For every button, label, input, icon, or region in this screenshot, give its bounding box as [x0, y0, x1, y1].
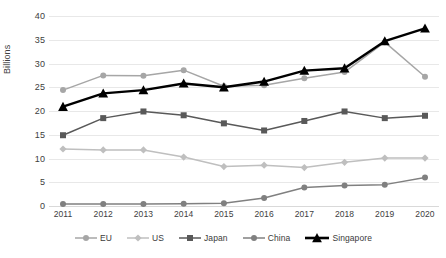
data-point-marker — [140, 73, 146, 79]
y-axis-tick-label: 5 — [3, 177, 45, 187]
series-line — [63, 178, 425, 205]
data-point-marker — [341, 159, 348, 166]
data-point-marker — [100, 72, 106, 78]
x-axis-tick-label: 2016 — [254, 209, 273, 219]
data-point-marker — [140, 201, 146, 207]
data-point-marker — [381, 154, 388, 161]
y-axis-tick-label: 35 — [3, 35, 45, 45]
data-point-marker — [220, 163, 227, 170]
x-axis-tick-label: 2017 — [295, 209, 314, 219]
data-point-marker — [181, 112, 187, 118]
data-point-marker — [140, 146, 147, 153]
x-axis-tick-labels: 2011201220132014201520162017201820192020 — [49, 209, 439, 223]
x-axis-tick-label: 2011 — [54, 209, 73, 219]
data-point-marker — [261, 162, 268, 169]
legend-item-china[interactable]: China — [242, 233, 291, 243]
x-axis-tick-label: 2020 — [415, 209, 434, 219]
data-point-marker — [251, 235, 257, 241]
x-axis-tick-label: 2014 — [174, 209, 193, 219]
data-point-marker — [221, 200, 227, 206]
data-point-marker — [140, 108, 146, 114]
data-point-marker — [134, 234, 141, 241]
legend-item-us[interactable]: US — [126, 233, 164, 243]
legend-label: US — [152, 233, 164, 243]
data-point-marker — [342, 108, 348, 114]
legend-label: Singapore — [332, 233, 372, 243]
plot-area — [49, 16, 439, 206]
legend-marker-circle-icon — [242, 233, 266, 243]
y-axis-tick-label: 10 — [3, 154, 45, 164]
legend-label: China — [268, 233, 291, 243]
x-axis-tick-label: 2012 — [94, 209, 113, 219]
data-point-marker — [301, 118, 307, 124]
y-axis-tick-label: 40 — [3, 11, 45, 21]
legend-label: Japan — [204, 233, 228, 243]
legend-item-singapore[interactable]: Singapore — [304, 233, 372, 243]
data-point-marker — [60, 87, 66, 93]
y-axis-tick-labels: 4035302520151050 — [0, 16, 45, 206]
x-axis-tick-label: 2013 — [134, 209, 153, 219]
series-line — [63, 149, 425, 168]
data-point-marker — [422, 113, 428, 119]
data-point-marker — [420, 23, 430, 32]
y-axis-tick-label: 20 — [3, 106, 45, 116]
data-point-marker — [382, 115, 388, 121]
x-axis-tick-label: 2015 — [214, 209, 233, 219]
chart-legend: EUUSJapanChinaSingapore — [0, 230, 446, 246]
data-point-marker — [100, 146, 107, 153]
data-point-marker — [301, 184, 307, 190]
series-japan — [60, 108, 428, 138]
data-point-marker — [342, 183, 348, 189]
legend-marker-circle-icon — [74, 233, 98, 243]
data-point-marker — [301, 164, 308, 171]
data-point-marker — [421, 154, 428, 161]
y-axis-tick-label: 0 — [3, 201, 45, 211]
series-singapore — [58, 23, 430, 110]
series-line — [63, 111, 425, 135]
data-point-marker — [180, 153, 187, 160]
line-chart: Billions 4035302520151050 20112012201320… — [0, 0, 446, 258]
legend-item-japan[interactable]: Japan — [178, 233, 228, 243]
y-axis-tick-label: 15 — [3, 130, 45, 140]
legend-marker-diamond-icon — [126, 233, 150, 243]
x-axis-tick-label: 2018 — [335, 209, 354, 219]
data-point-marker — [261, 195, 267, 201]
data-point-marker — [100, 115, 106, 121]
data-point-marker — [221, 120, 227, 126]
data-point-marker — [83, 235, 89, 241]
data-point-marker — [59, 145, 66, 152]
data-point-marker — [422, 74, 428, 80]
legend-item-eu[interactable]: EU — [74, 233, 112, 243]
data-point-marker — [181, 201, 187, 207]
series-china — [60, 175, 428, 208]
data-point-marker — [301, 75, 307, 81]
y-axis-tick-label: 30 — [3, 59, 45, 69]
data-point-marker — [422, 175, 428, 181]
data-point-marker — [261, 127, 267, 133]
series-layer — [49, 16, 439, 206]
x-axis-tick-label: 2019 — [375, 209, 394, 219]
legend-marker-square-icon — [178, 233, 202, 243]
y-axis-tick-label: 25 — [3, 82, 45, 92]
data-point-marker — [382, 182, 388, 188]
series-us — [59, 145, 428, 171]
data-point-marker — [181, 67, 187, 73]
data-point-marker — [100, 201, 106, 207]
data-point-marker — [60, 201, 66, 207]
series-line — [63, 28, 425, 106]
data-point-marker — [187, 235, 193, 241]
legend-label: EU — [100, 233, 112, 243]
data-point-marker — [60, 132, 66, 138]
legend-marker-triangle-icon — [304, 233, 330, 243]
gridline — [49, 206, 439, 207]
